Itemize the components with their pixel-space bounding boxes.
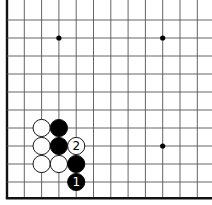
white-stone: [33, 155, 50, 172]
star-point-icon: [160, 35, 165, 40]
star-point-icon: [160, 143, 165, 148]
white-stone: [33, 137, 50, 154]
black-stone: 1: [68, 173, 85, 190]
white-stone: [50, 155, 67, 172]
black-stone: [50, 137, 67, 154]
black-stone: [68, 155, 85, 172]
black-stone: [50, 119, 67, 136]
move-number: 1: [72, 175, 80, 189]
white-stone: [33, 119, 50, 136]
white-stone: 2: [68, 137, 85, 154]
move-number: 2: [72, 139, 80, 153]
star-point-icon: [56, 35, 61, 40]
go-board-diagram: 21: [0, 0, 212, 205]
